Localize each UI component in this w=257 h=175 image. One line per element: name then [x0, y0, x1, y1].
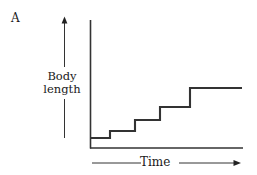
plot-area: [0, 0, 257, 175]
step-curve-body-length: [90, 88, 242, 138]
x-annotation-arrowhead-icon: [234, 160, 242, 166]
y-axis-annotation-arrow: [62, 17, 68, 139]
x-axis-annotation-arrow: [92, 160, 241, 166]
y-annotation-arrowhead-icon: [62, 17, 68, 24]
figure-panel-a: A Body length Time: [0, 0, 257, 175]
